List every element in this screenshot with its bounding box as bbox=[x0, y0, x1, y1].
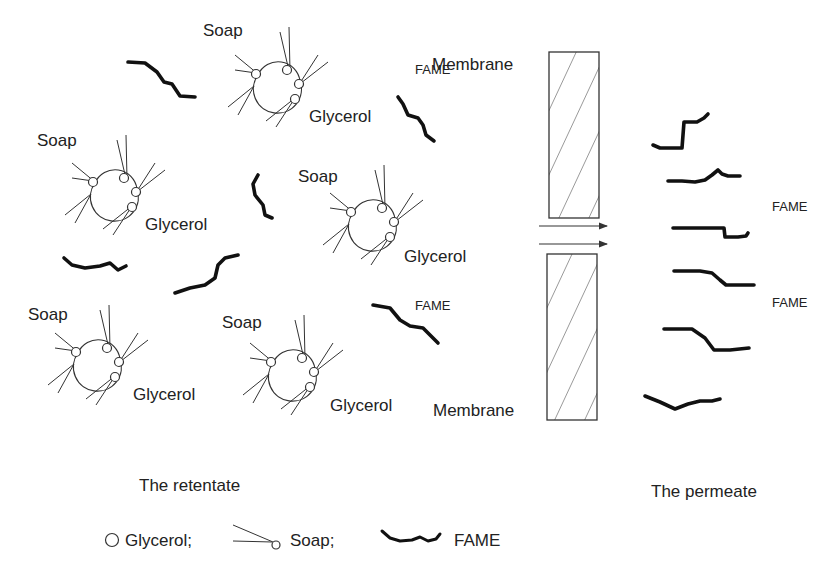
soap-glycerol-cluster-3: Soap Glycerol bbox=[298, 165, 466, 266]
legend-glycerol-label: Glycerol; bbox=[125, 531, 192, 550]
soap-label: Soap bbox=[203, 21, 243, 40]
fame-chain-icon bbox=[253, 175, 272, 218]
membrane-block-bottom bbox=[547, 254, 597, 420]
permeate-caption: The permeate bbox=[651, 482, 757, 501]
fame-chain-icon bbox=[664, 329, 749, 350]
fame-label: FAME bbox=[772, 199, 808, 214]
fame-chain-icon bbox=[668, 170, 740, 182]
retentate-caption: The retentate bbox=[139, 476, 240, 495]
soap-glycerol-cluster-5: Soap Glycerol bbox=[222, 313, 392, 415]
fame-chain-icon bbox=[674, 271, 754, 285]
glycerol-label: Glycerol bbox=[404, 247, 466, 266]
fame-label: FAME bbox=[415, 298, 451, 313]
glycerol-label: Glycerol bbox=[330, 396, 392, 415]
soap-molecule-icon bbox=[233, 525, 280, 549]
soap-label: Soap bbox=[28, 305, 68, 324]
retentate-fame-chains: FAME FAME bbox=[64, 62, 451, 343]
fame-chain-icon bbox=[382, 531, 440, 541]
legend-soap-label: Soap; bbox=[290, 531, 334, 550]
fame-chain-icon bbox=[645, 396, 720, 409]
soap-glycerol-cluster-1: Soap Glycerol bbox=[203, 21, 371, 127]
membrane-bottom-label: Membrane bbox=[433, 401, 514, 420]
soap-glycerol-cluster-2: Soap Glycerol bbox=[37, 131, 207, 235]
membrane-block-top bbox=[549, 52, 599, 218]
membrane-diagram: Soap Glycerol Soap Glycerol Soap Glycero… bbox=[0, 0, 828, 583]
glycerol-label: Glycerol bbox=[133, 385, 195, 404]
permeate-fame-chains: FAME FAME bbox=[645, 114, 808, 409]
fame-label: FAME bbox=[772, 295, 808, 310]
membrane: Membrane Membrane bbox=[432, 52, 607, 420]
membrane-top-label: Membrane bbox=[432, 55, 513, 74]
soap-label: Soap bbox=[222, 313, 262, 332]
fame-chain-icon bbox=[128, 62, 195, 97]
soap-label: Soap bbox=[298, 167, 338, 186]
soap-glycerol-cluster-4: Soap Glycerol bbox=[28, 305, 195, 405]
legend: Glycerol; Soap; FAME bbox=[106, 525, 501, 550]
glycerol-label: Glycerol bbox=[309, 107, 371, 126]
fame-chain-icon bbox=[175, 255, 238, 293]
soap-label: Soap bbox=[37, 131, 77, 150]
glycerol-label: Glycerol bbox=[145, 215, 207, 234]
fame-chain-icon bbox=[673, 228, 748, 237]
fame-chain-icon bbox=[398, 97, 434, 141]
glycerol-circle-icon bbox=[106, 534, 119, 547]
fame-chain-icon bbox=[64, 258, 126, 270]
legend-fame-label: FAME bbox=[454, 531, 500, 550]
fame-chain-icon bbox=[653, 114, 708, 148]
